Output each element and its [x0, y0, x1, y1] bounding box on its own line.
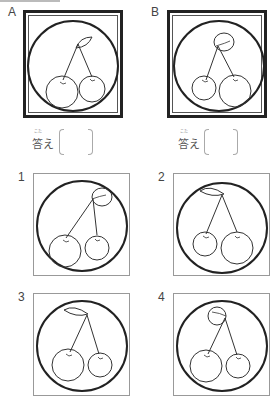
- cherry-icon: [174, 294, 271, 397]
- cropped-header-text: [0, 0, 60, 2]
- answer-a-furigana: こた: [34, 128, 42, 134]
- option-1-label: 1: [18, 170, 25, 184]
- panel-b-label: B: [151, 5, 159, 19]
- option-2-figure[interactable]: [173, 173, 270, 276]
- panel-b-figure: [167, 10, 267, 118]
- answer-b-input[interactable]: [204, 129, 238, 155]
- answer-a-input[interactable]: [59, 129, 93, 155]
- cherry-icon: [174, 174, 271, 277]
- option-2-label: 2: [158, 170, 165, 184]
- panel-a-figure: [23, 10, 123, 118]
- option-4-figure[interactable]: [173, 293, 270, 396]
- answer-b-label: 答え: [178, 135, 200, 151]
- option-4-label: 4: [158, 290, 165, 304]
- cherry-icon: [26, 13, 126, 121]
- cherry-icon: [170, 13, 270, 121]
- option-3-figure[interactable]: [33, 293, 130, 396]
- option-3-label: 3: [18, 290, 25, 304]
- option-1-figure[interactable]: [33, 173, 130, 276]
- answer-a-label: 答え: [32, 135, 54, 151]
- panel-a-label: A: [8, 5, 16, 19]
- cherry-icon: [34, 294, 131, 397]
- cherry-icon: [34, 174, 131, 277]
- answer-b-furigana: こた: [180, 128, 188, 134]
